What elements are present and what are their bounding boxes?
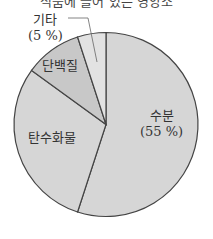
label-water-name: 수분: [140, 108, 183, 124]
label-protein: 단백질: [42, 58, 78, 74]
label-water-pct: (55 %): [140, 124, 183, 140]
label-etc-name: 기타: [28, 12, 63, 28]
label-etc-pct: (5 %): [28, 28, 63, 44]
label-carbs: 탄수화물: [28, 130, 76, 146]
label-water: 수분 (55 %): [140, 108, 183, 140]
label-etc: 기타 (5 %): [28, 12, 63, 44]
